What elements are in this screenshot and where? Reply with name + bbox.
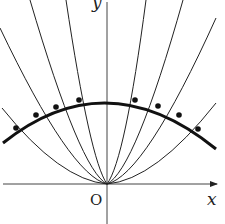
x-axis-label: x — [207, 189, 217, 209]
envelope-curve — [3, 103, 216, 149]
parabola-family-diagram: O x y — [0, 0, 225, 224]
parabolas — [0, 0, 216, 184]
origin-label: O — [90, 191, 102, 209]
y-axis-label: y — [91, 0, 102, 12]
